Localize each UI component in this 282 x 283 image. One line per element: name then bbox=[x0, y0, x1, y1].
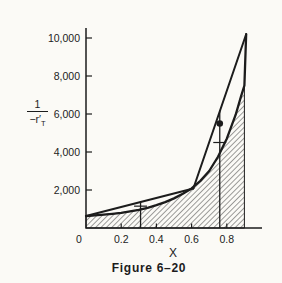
data-point-dot bbox=[216, 120, 223, 127]
figure-caption: Figure 6–20 bbox=[0, 261, 282, 275]
fraction-bar-line bbox=[27, 111, 48, 112]
x-tick-label: 0 bbox=[76, 233, 82, 245]
chart-canvas: 2,0004,0006,0008,00010,00000.20.40.60.8 bbox=[0, 0, 282, 283]
y-axis-label: 1 −r′T bbox=[25, 98, 50, 129]
x-axis-label: X bbox=[160, 246, 186, 260]
y-tick-label: 10,000 bbox=[48, 32, 80, 44]
x-tick-label: 0.6 bbox=[184, 233, 199, 245]
y-tick-label: 4,000 bbox=[54, 146, 80, 158]
x-tick-label: 0.4 bbox=[149, 233, 164, 245]
y-tick-label: 2,000 bbox=[54, 184, 80, 196]
y-tick-label: 8,000 bbox=[54, 70, 80, 82]
y-axis-label-denominator: −r′T bbox=[25, 113, 50, 129]
x-tick-label: 0.8 bbox=[219, 233, 234, 245]
y-axis-label-numerator: 1 bbox=[25, 98, 50, 110]
y-tick-label: 6,000 bbox=[54, 108, 80, 120]
x-tick-label: 0.2 bbox=[114, 233, 129, 245]
